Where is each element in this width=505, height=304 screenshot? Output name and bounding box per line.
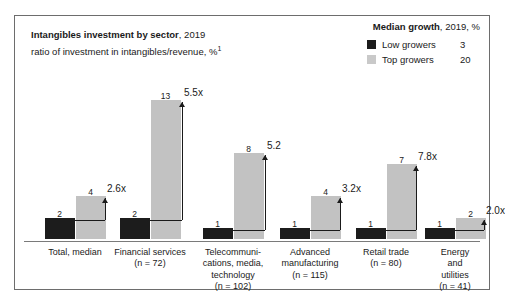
bar-value-label-low-energy-and-utilities: 1 [437, 219, 442, 229]
category-label-line: Telecommuni- [203, 247, 264, 258]
category-label-line: Financial services [114, 247, 186, 258]
ratio-baseline-rule-retail-trade [386, 230, 417, 231]
bar-top-growers-advanced-manufacturing [311, 196, 341, 239]
bar-top-growers-telecommunications-media-technology [234, 153, 264, 239]
ratio-baseline-rule-total-median [75, 220, 106, 221]
bar-value-label-low-retail-trade: 1 [368, 219, 373, 229]
bar-low-growers-retail-trade [356, 228, 386, 239]
category-label-energy-and-utilities: Energy and utilities(n = 41) [438, 247, 472, 292]
bar-low-growers-advanced-manufacturing [280, 228, 310, 239]
bar-value-label-low-total-median: 2 [57, 209, 62, 219]
bar-top-growers-total-median [76, 196, 106, 239]
ratio-arrow-head-icon-financial-services [179, 102, 185, 107]
ratio-arrow-head-icon-energy-and-utilities [481, 220, 487, 225]
category-label-line: (n = 80) [363, 258, 409, 269]
bar-value-label-top-telecommunications-media-technology: 8 [246, 144, 251, 154]
x-axis-line [24, 241, 480, 242]
bar-value-label-top-energy-and-utilities: 2 [468, 209, 473, 219]
bar-value-label-top-total-median: 4 [88, 187, 93, 197]
ratio-label-advanced-manufacturing: 3.2x [342, 183, 361, 194]
ratio-baseline-rule-energy-and-utilities [455, 230, 485, 231]
category-label-line: (n = 41) [438, 281, 472, 292]
category-label-line: Advanced [281, 247, 338, 258]
bar-top-growers-financial-services [151, 100, 181, 239]
plot-area: 242.6xTotal, median2135.5xFinancial serv… [15, 16, 489, 289]
category-label-line: cations, media, [203, 258, 264, 269]
category-label-line: Energy and utilities [438, 247, 472, 281]
category-label-financial-services: Financial services(n = 72) [114, 247, 186, 270]
category-label-line: (n = 115) [281, 270, 338, 281]
ratio-arrow-head-icon-total-median [102, 198, 108, 203]
category-label-telecommunications-media-technology: Telecommuni-cations, media,technology(n … [203, 247, 264, 292]
bar-value-label-low-advanced-manufacturing: 1 [292, 219, 297, 229]
bar-value-label-top-advanced-manufacturing: 4 [323, 187, 328, 197]
category-label-line: technology [203, 270, 264, 281]
category-label-line: Retail trade [363, 247, 409, 258]
bar-top-growers-retail-trade [387, 164, 417, 239]
bar-value-label-top-retail-trade: 7 [399, 155, 404, 165]
category-label-line: manufacturing [281, 258, 338, 269]
bar-low-growers-energy-and-utilities [425, 228, 455, 239]
ratio-arrow-shaft-financial-services [182, 102, 183, 220]
bar-value-label-low-financial-services: 2 [132, 209, 137, 219]
ratio-arrow-head-icon-telecommunications-media-technology [262, 155, 268, 160]
category-label-total-median: Total, median [48, 247, 102, 258]
ratio-arrow-shaft-retail-trade [416, 166, 417, 230]
category-label-advanced-manufacturing: Advancedmanufacturing(n = 115) [281, 247, 338, 281]
ratio-label-energy-and-utilities: 2.0x [486, 205, 505, 216]
ratio-arrow-head-icon-retail-trade [413, 166, 419, 171]
ratio-label-retail-trade: 7.8x [418, 151, 437, 162]
ratio-label-total-median: 2.6x [107, 183, 126, 194]
ratio-baseline-rule-advanced-manufacturing [310, 230, 341, 231]
bar-value-label-top-financial-services: 13 [161, 91, 170, 101]
bar-value-label-low-telecommunications-media-technology: 1 [215, 219, 220, 229]
category-label-retail-trade: Retail trade(n = 80) [363, 247, 409, 270]
exhibit-frame: Intangibles investment by sector, 2019 r… [14, 15, 490, 290]
category-label-line: (n = 72) [114, 258, 186, 269]
ratio-baseline-rule-financial-services [150, 220, 183, 221]
ratio-arrow-head-icon-advanced-manufacturing [337, 198, 343, 203]
bar-low-growers-financial-services [120, 218, 150, 239]
ratio-label-financial-services: 5.5x [184, 87, 203, 98]
bar-low-growers-total-median [45, 218, 75, 239]
ratio-arrow-shaft-telecommunications-media-technology [265, 155, 266, 230]
bar-low-growers-telecommunications-media-technology [203, 228, 233, 239]
ratio-label-telecommunications-media-technology: 5.2 [267, 140, 281, 151]
category-label-line: Total, median [48, 247, 102, 258]
ratio-baseline-rule-telecommunications-media-technology [233, 230, 266, 231]
category-label-line: (n = 102) [203, 281, 264, 292]
